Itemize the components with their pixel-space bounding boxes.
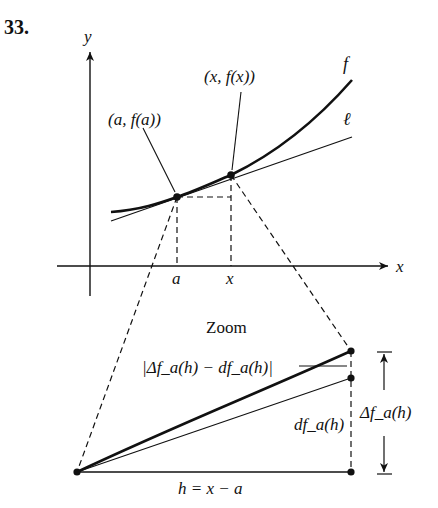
tick-a-label: a — [172, 269, 181, 288]
calculus-figure: 33. y x f ℓ (a, f(a)) (x, f(x)) a x Zoom — [0, 0, 438, 508]
x-axis-label: x — [395, 257, 404, 276]
leader-line-a — [143, 128, 175, 192]
point-a — [173, 193, 181, 201]
problem-number: 33. — [4, 16, 29, 38]
delta-label: Δf_a(h) — [359, 403, 412, 422]
zoom-tangent-point — [347, 374, 354, 381]
error-label: |Δf_a(h) − df_a(h)| — [142, 358, 273, 377]
y-axis-label: y — [82, 27, 92, 46]
tick-x-label: x — [225, 269, 234, 288]
base-label: h = x − a — [178, 479, 243, 498]
curve-f — [111, 80, 352, 212]
zoom-origin-point — [73, 468, 80, 475]
y-axis: y — [82, 27, 92, 296]
zoom-curve-point — [347, 347, 354, 354]
zoom-title: Zoom — [206, 318, 247, 337]
zoom-base-point — [347, 468, 354, 475]
differential-label: df_a(h) — [294, 415, 344, 434]
point-x — [227, 171, 235, 179]
point-a-label: (a, f(a)) — [108, 110, 161, 129]
curve-f-label: f — [343, 54, 351, 74]
tangent-label: ℓ — [343, 109, 351, 129]
point-x-label: (x, f(x)) — [204, 67, 255, 86]
leader-line-x — [232, 92, 241, 170]
